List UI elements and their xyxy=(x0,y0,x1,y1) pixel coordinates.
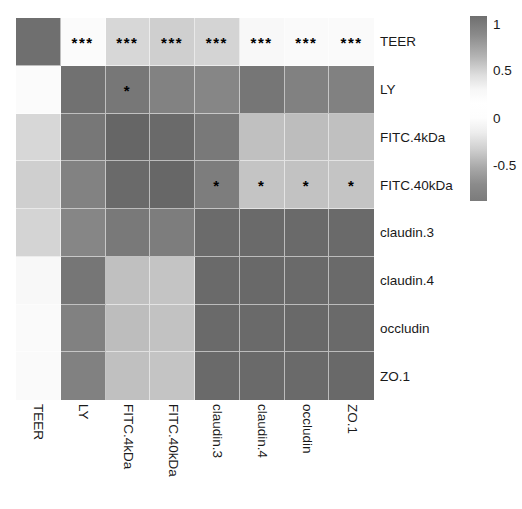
heatmap-cell: * xyxy=(195,161,240,209)
column-label-cell: FITC.4kDa xyxy=(106,402,151,505)
colorbar-tick-label: 1 xyxy=(493,18,501,32)
colorbar-legend: 10.50-0.5 xyxy=(470,16,520,206)
heatmap-cell xyxy=(329,66,374,114)
heatmap-cell xyxy=(16,305,61,353)
heatmap-cell xyxy=(16,161,61,209)
heatmap-cell xyxy=(61,66,106,114)
heatmap-cell xyxy=(329,352,374,400)
heatmap-cell xyxy=(16,352,61,400)
row-label-fitc-4kda: FITC.4kDa xyxy=(380,114,472,162)
column-label-ly: LY xyxy=(76,404,91,420)
heatmap-cell xyxy=(150,305,195,353)
column-label-occludin: occludin xyxy=(299,404,314,454)
heatmap-cell xyxy=(195,66,240,114)
heatmap-cell xyxy=(106,257,151,305)
row-label-claudin-3: claudin.3 xyxy=(380,209,472,257)
heatmap-cell: *** xyxy=(329,18,374,66)
heatmap-cell xyxy=(61,161,106,209)
heatmap-cell xyxy=(106,305,151,353)
column-label-claudin-3: claudin.3 xyxy=(210,404,225,458)
column-label-cell: FITC.40kDa xyxy=(150,402,195,505)
column-label-cell: ZO.1 xyxy=(329,402,374,505)
significance-marker: *** xyxy=(251,35,273,50)
significance-marker: *** xyxy=(206,35,228,50)
heatmap-cell xyxy=(150,161,195,209)
heatmap-cell xyxy=(61,209,106,257)
column-label-cell: claudin.3 xyxy=(195,402,240,505)
heatmap-cell xyxy=(16,257,61,305)
heatmap-cell xyxy=(16,66,61,114)
row-label-fitc-40kda: FITC.40kDa xyxy=(380,161,472,209)
heatmap-cell xyxy=(285,209,330,257)
heatmap-cell: *** xyxy=(150,18,195,66)
heatmap-cell xyxy=(106,161,151,209)
heatmap-cell: * xyxy=(285,161,330,209)
heatmap-cell: * xyxy=(240,161,285,209)
heatmap-cell xyxy=(150,257,195,305)
heatmap-cell xyxy=(240,209,285,257)
heatmap-cell xyxy=(195,257,240,305)
column-label-teer: TEER xyxy=(31,404,46,440)
heatmap-cell xyxy=(195,209,240,257)
heatmap-cell xyxy=(285,352,330,400)
heatmap-cell xyxy=(195,352,240,400)
significance-marker: *** xyxy=(341,35,363,50)
heatmap-cell: *** xyxy=(106,18,151,66)
heatmap-cell: * xyxy=(106,66,151,114)
heatmap-cell xyxy=(329,209,374,257)
heatmap-cell xyxy=(329,257,374,305)
heatmap-cell xyxy=(195,305,240,353)
heatmap-cell xyxy=(61,305,106,353)
heatmap-cell xyxy=(240,114,285,162)
heatmap-cell xyxy=(16,114,61,162)
heatmap-cell xyxy=(16,209,61,257)
heatmap-cell xyxy=(240,352,285,400)
heatmap-cell xyxy=(106,114,151,162)
heatmap-grid: ************************** xyxy=(16,18,374,400)
colorbar-tick-label: -0.5 xyxy=(493,159,516,173)
heatmap-cell xyxy=(329,305,374,353)
significance-marker: * xyxy=(348,178,355,193)
column-label-cell: TEER xyxy=(16,402,61,505)
heatmap-cell: *** xyxy=(61,18,106,66)
significance-marker: * xyxy=(213,178,220,193)
significance-marker: * xyxy=(124,83,131,98)
correlation-heatmap-figure: ************************** TEERLYFITC.4k… xyxy=(0,0,522,509)
significance-marker: *** xyxy=(116,35,138,50)
heatmap-cell xyxy=(150,114,195,162)
column-label-cell: occludin xyxy=(285,402,330,505)
column-label-fitc-4kda: FITC.4kDa xyxy=(120,404,135,469)
heatmap-cell xyxy=(195,114,240,162)
significance-marker: * xyxy=(258,178,265,193)
significance-marker: *** xyxy=(161,35,183,50)
row-label-claudin-4: claudin.4 xyxy=(380,257,472,305)
heatmap-cell xyxy=(240,257,285,305)
heatmap-cell xyxy=(240,66,285,114)
colorbar-tick-label: 0 xyxy=(493,112,501,126)
colorbar-gradient xyxy=(470,16,487,201)
column-axis-labels: TEERLYFITC.4kDaFITC.40kDaclaudin.3claudi… xyxy=(16,402,374,505)
heatmap-cell xyxy=(285,305,330,353)
column-label-cell: LY xyxy=(61,402,106,505)
heatmap-cell: *** xyxy=(240,18,285,66)
row-axis-labels: TEERLYFITC.4kDaFITC.40kDaclaudin.3claudi… xyxy=(380,18,472,400)
heatmap-cell xyxy=(150,352,195,400)
heatmap-cell xyxy=(16,18,61,66)
heatmap-cell xyxy=(150,66,195,114)
heatmap-cell: * xyxy=(329,161,374,209)
significance-marker: *** xyxy=(72,35,94,50)
row-label-zo-1: ZO.1 xyxy=(380,352,472,400)
row-label-occludin: occludin xyxy=(380,305,472,353)
column-label-cell: claudin.4 xyxy=(240,402,285,505)
heatmap-cell xyxy=(61,114,106,162)
heatmap-cell xyxy=(150,209,195,257)
significance-marker: *** xyxy=(295,35,317,50)
row-label-ly: LY xyxy=(380,66,472,114)
heatmap-cell xyxy=(329,114,374,162)
column-label-zo-1: ZO.1 xyxy=(344,404,359,434)
heatmap-cell: *** xyxy=(195,18,240,66)
column-label-claudin-4: claudin.4 xyxy=(255,404,270,458)
row-label-teer: TEER xyxy=(380,18,472,66)
heatmap-cell xyxy=(106,209,151,257)
colorbar-tick-label: 0.5 xyxy=(493,64,512,78)
